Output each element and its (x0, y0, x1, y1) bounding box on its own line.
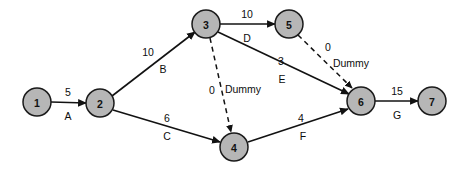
edge-activity-label-a: A (64, 111, 71, 122)
node-label-7: 7 (429, 96, 435, 108)
edge-a-n1-to-n2 (51, 102, 86, 103)
edge-duration-label-d: 10 (241, 9, 253, 20)
edge-activity-label-f: F (300, 131, 306, 142)
edge-duration-label-b: 10 (142, 47, 154, 58)
edge-activity-label-b: B (159, 64, 166, 75)
edge-activity-label-g: G (393, 110, 401, 121)
edge-duration-label-e: 3 (278, 56, 284, 67)
node-label-2: 2 (97, 98, 103, 110)
edge-duration-label-dummy: 0 (325, 42, 331, 53)
edge-b-n2-to-n3 (112, 32, 195, 96)
edge-activity-label-d: D (243, 33, 251, 44)
node-label-4: 4 (231, 142, 237, 154)
node-label-5: 5 (286, 19, 292, 31)
edge-activity-label-e: E (278, 74, 285, 85)
edge-duration-label-c: 6 (164, 113, 170, 124)
node-label-6: 6 (358, 96, 364, 108)
edge-activity-label-dummy: Dummy (225, 84, 261, 95)
node-label-3: 3 (203, 19, 209, 31)
edge-duration-label-a: 5 (65, 87, 71, 98)
node-label-1: 1 (34, 97, 40, 109)
edge-duration-label-dummy: 0 (209, 85, 215, 96)
network-diagram-canvas: 1234567 5A10B6C10D0Dummy3E0Dummy4F15G (0, 0, 463, 174)
edge-duration-label-g: 15 (391, 86, 403, 97)
edge-activity-label-c: C (163, 131, 171, 142)
edge-activity-label-dummy: Dummy (333, 58, 369, 69)
edge-duration-label-f: 4 (298, 113, 304, 124)
